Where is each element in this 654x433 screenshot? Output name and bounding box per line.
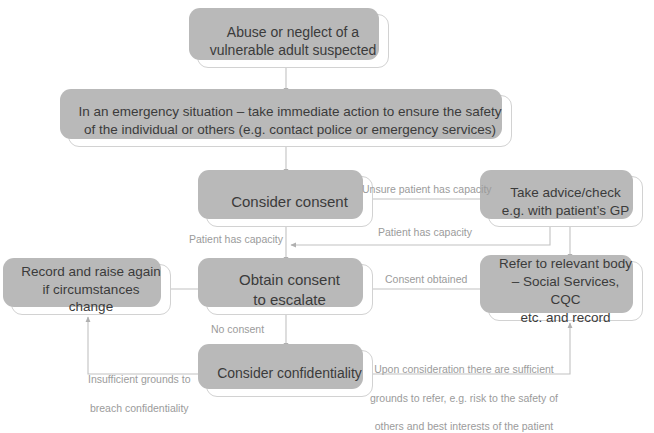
node-take-advice-line1: Take advice/check [510, 185, 620, 200]
node-obtain-consent-line1: Obtain consent [239, 271, 340, 288]
node-refer-to-relevant-body[interactable]: Refer to relevant body – Social Services… [488, 261, 643, 321]
node-record-line1: Record and raise again [21, 264, 161, 279]
node-emergency-line1: In an emergency situation – take immedia… [78, 104, 501, 119]
node-abuse-text: Abuse or neglect of a vulnerable adult s… [202, 23, 385, 60]
node-abuse-line1: Abuse or neglect of a [227, 24, 359, 40]
edge-label-upon-line1: Upon consideration there are sufficient [374, 363, 554, 375]
edge-label-consent-obtained: Consent obtained [385, 272, 467, 286]
node-consider-consent[interactable]: Consider consent [206, 176, 373, 227]
node-take-advice-line2: e.g. with patient’s GP [502, 203, 629, 218]
edge-label-insufficient-line1: Insufficient grounds to [88, 373, 191, 385]
node-refer-text: Refer to relevant body – Social Services… [489, 255, 642, 326]
node-obtain-consent[interactable]: Obtain consent to escalate [206, 264, 373, 315]
node-emergency-text: In an emergency situation – take immedia… [70, 103, 509, 139]
edge-label-upon-line3: others and best interests of the patient [375, 420, 554, 432]
node-abuse-suspected[interactable]: Abuse or neglect of a vulnerable adult s… [197, 14, 389, 68]
node-consider-confidentiality[interactable]: Consider confidentiality [206, 350, 373, 397]
edge-label-patient-has-capacity-left: Patient has capacity [189, 232, 283, 246]
node-emergency-line2: of the individual or others (e.g. contac… [84, 122, 496, 137]
node-refer-line3: etc. and record [520, 310, 610, 325]
node-take-advice[interactable]: Take advice/check e.g. with patient’s GP [488, 176, 643, 227]
node-consider-confidentiality-text: Consider confidentiality [209, 364, 370, 382]
node-take-advice-text: Take advice/check e.g. with patient’s GP [494, 184, 637, 220]
node-record-text: Record and raise again if circumstances … [12, 263, 170, 316]
edge-label-upon-consideration: Upon consideration there are sufficient … [370, 348, 558, 433]
node-abuse-line2: vulnerable adult suspected [210, 42, 377, 58]
node-refer-line2: – Social Services, CQC [512, 274, 619, 307]
node-consider-confidentiality-line1: Consider confidentiality [217, 365, 362, 381]
node-record-and-raise-again[interactable]: Record and raise again if circumstances … [11, 264, 171, 315]
edge-label-upon-line2: grounds to refer, e.g. risk to the safet… [370, 392, 558, 404]
edge-label-patient-has-capacity-right: Patient has capacity [378, 225, 472, 239]
node-record-line2: if circumstances change [43, 282, 140, 315]
node-emergency-action[interactable]: In an emergency situation – take immedia… [68, 95, 512, 147]
node-refer-line1: Refer to relevant body [499, 256, 632, 271]
edge-label-insufficient-grounds: Insufficient grounds to breach confident… [88, 358, 191, 415]
edge-label-no-consent: No consent [211, 322, 264, 336]
edge-label-unsure-capacity: Unsure patient has capacity [362, 182, 492, 196]
node-consider-consent-line1: Consider consent [231, 193, 348, 210]
edge-label-insufficient-line2: breach confidentiality [90, 402, 189, 414]
node-obtain-consent-text: Obtain consent to escalate [231, 270, 348, 310]
node-obtain-consent-line2: to escalate [253, 291, 326, 308]
node-consider-consent-text: Consider consent [223, 192, 356, 212]
